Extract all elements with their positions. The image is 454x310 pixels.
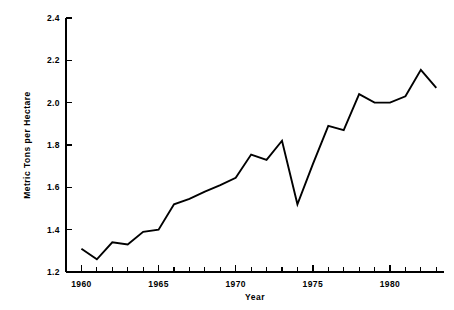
x-tick-label: 1960 [71, 279, 92, 289]
y-axis-tick-labels: 2.42.22.01.81.61.41.2 [47, 13, 60, 277]
y-tick-label: 1.2 [47, 267, 60, 277]
y-tick-label: 1.8 [47, 140, 60, 150]
y-tick-label: 2.0 [47, 98, 60, 108]
y-tick-label: 1.4 [47, 225, 60, 235]
x-tick-label: 1970 [225, 279, 246, 289]
y-axis-label: Metric Tons per Hectare [22, 91, 32, 199]
y-tick-label: 2.4 [47, 13, 60, 23]
y-tick-label: 1.6 [47, 182, 60, 192]
x-tick-label: 1975 [303, 279, 324, 289]
x-axis-label: Year [245, 292, 265, 302]
y-tick-label: 2.2 [47, 55, 60, 65]
data-series-line [81, 70, 436, 259]
line-chart: 2.42.22.01.81.61.41.2 196019651970197519… [0, 0, 454, 310]
x-tick-label: 1980 [380, 279, 401, 289]
y-axis-ticks [66, 18, 72, 272]
chart-axes [66, 18, 444, 272]
x-axis-tick-labels: 19601965197019751980 [71, 279, 400, 289]
x-tick-label: 1965 [148, 279, 169, 289]
chart-container: 2.42.22.01.81.61.41.2 196019651970197519… [0, 0, 454, 310]
